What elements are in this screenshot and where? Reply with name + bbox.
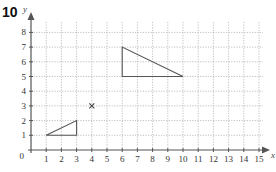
x-tick-label: 11 xyxy=(194,154,203,164)
x-tick-label: 2 xyxy=(59,154,64,164)
x-tick-label: 4 xyxy=(90,154,95,164)
x-tick-label: 10 xyxy=(179,154,189,164)
y-tick-label: 2 xyxy=(22,116,27,126)
x-axis-arrow-icon xyxy=(262,147,270,154)
origin-label: 0 xyxy=(20,151,25,161)
x-tick-label: 6 xyxy=(120,154,125,164)
x-tick-label: 12 xyxy=(209,154,218,164)
x-tick-label: 9 xyxy=(166,154,171,164)
x-tick-label: 5 xyxy=(105,154,110,164)
x-tick-label: 7 xyxy=(135,154,140,164)
x-tick-label: 3 xyxy=(74,154,79,164)
x-tick-label: 13 xyxy=(224,154,234,164)
y-tick-label: 4 xyxy=(22,86,27,96)
x-tick-label: 1 xyxy=(44,154,49,164)
y-axis-label: y xyxy=(22,4,27,14)
y-tick-label: 7 xyxy=(22,42,27,52)
x-axis-label: x xyxy=(270,150,275,160)
y-tick-label: 3 xyxy=(22,101,27,111)
coordinate-grid-chart: 123456789101112131415123456780xy xyxy=(0,0,276,172)
small-triangle xyxy=(46,121,76,136)
x-tick-label: 15 xyxy=(255,154,265,164)
x-tick-label: 8 xyxy=(150,154,155,164)
y-tick-label: 5 xyxy=(22,72,27,82)
y-axis-arrow-icon xyxy=(28,12,35,20)
y-tick-label: 6 xyxy=(22,57,27,67)
y-tick-label: 8 xyxy=(22,27,27,37)
y-tick-label: 1 xyxy=(22,130,27,140)
x-tick-label: 14 xyxy=(239,154,249,164)
